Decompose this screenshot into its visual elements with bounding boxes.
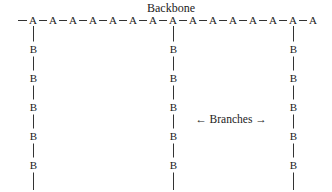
backbone-node: A [127,15,139,26]
backbone-node: A [147,15,159,26]
branch-node: B [168,129,180,144]
backbone-node: A [187,15,199,26]
backbone-node: A [267,15,279,26]
branch-node: B [168,100,180,115]
backbone-node: A [67,15,79,26]
branches-label: ← Branches → [195,113,267,125]
backbone-node: A [27,15,39,26]
backbone-node: A [247,15,259,26]
backbone-node: A [47,15,59,26]
branch-node: B [28,100,40,115]
backbone-bond-line [18,20,309,21]
branch-node: B [28,129,40,144]
branch-node: B [168,158,180,173]
branch-node: B [288,100,300,115]
branch-node: B [168,42,180,57]
branch-node: B [28,158,40,173]
backbone-node: A [207,15,219,26]
backbone-node: A [167,15,179,26]
backbone-node: A [107,15,119,26]
backbone-node: A [287,15,299,26]
polymer-branching-diagram: Backbone AAAAAAAAAAAAAAA BBBBBBBBBBBBBBB… [0,0,332,192]
backbone-node: A [307,15,319,26]
backbone-title: Backbone [147,2,195,14]
branch-node: B [288,129,300,144]
branch-node: B [168,71,180,86]
branch-node: B [288,71,300,86]
branch-node: B [288,158,300,173]
branch-node: B [28,71,40,86]
backbone-node: A [87,15,99,26]
backbone-node: A [227,15,239,26]
branch-node: B [28,42,40,57]
branch-node: B [288,42,300,57]
